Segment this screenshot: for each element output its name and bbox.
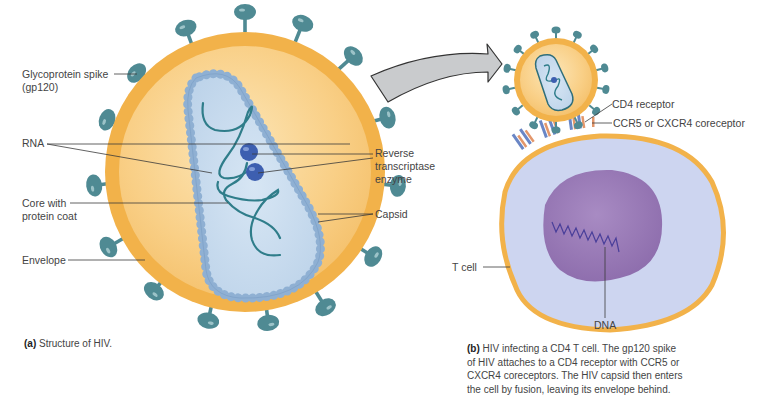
label-core-line1: Core with <box>22 197 77 210</box>
t-cell <box>502 136 724 330</box>
label-rt-line1: Reverse <box>375 147 435 160</box>
label-reverse-transcriptase: Reverse transcriptase enzyme <box>375 147 435 186</box>
label-core: Core with protein coat <box>22 197 77 223</box>
hiv-illustration <box>0 0 769 400</box>
infection-arrow <box>371 44 502 102</box>
caption-b-line2: of HIV attaches to a CD4 receptor with C… <box>467 356 767 370</box>
hiv-diagram: Glycoprotein spike (gp120) RNA Core with… <box>0 0 769 400</box>
caption-a-letter: (a) <box>24 338 36 349</box>
caption-b-letter: (b) <box>467 343 480 354</box>
caption-a: (a) Structure of HIV. <box>24 337 112 351</box>
hiv-virion-large <box>85 4 407 332</box>
label-glycoprotein-spike-line1: Glycoprotein spike <box>22 68 108 81</box>
label-rna: RNA <box>22 137 44 150</box>
label-capsid: Capsid <box>375 208 408 221</box>
caption-b-line4: the cell by fusion, leaving its envelope… <box>467 383 767 397</box>
label-coreceptor: CCR5 or CXCR4 coreceptor <box>613 117 745 130</box>
label-rt-line2: transcriptase <box>375 160 435 173</box>
caption-a-text: Structure of HIV. <box>36 338 112 349</box>
label-glycoprotein-spike-line2: (gp120) <box>22 81 108 94</box>
label-core-line2: protein coat <box>22 210 77 223</box>
caption-b: (b) HIV infecting a CD4 T cell. The gp12… <box>467 342 767 396</box>
caption-b-line3: CXCR4 coreceptors. The HIV capsid then e… <box>467 369 767 383</box>
caption-b-line1: HIV infecting a CD4 T cell. The gp120 sp… <box>480 343 676 354</box>
label-glycoprotein-spike: Glycoprotein spike (gp120) <box>22 68 108 94</box>
label-dna: DNA <box>594 319 616 332</box>
label-cd4-receptor: CD4 receptor <box>612 98 674 111</box>
label-envelope: Envelope <box>22 254 66 267</box>
label-t-cell: T cell <box>452 261 477 274</box>
label-rt-line3: enzyme <box>375 173 435 186</box>
